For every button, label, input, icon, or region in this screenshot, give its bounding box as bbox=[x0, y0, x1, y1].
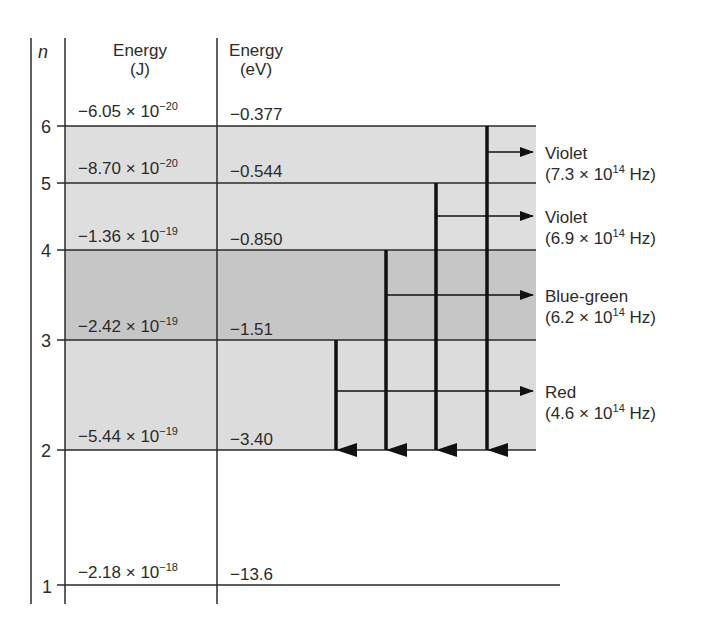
energy-ev-2: −3.40 bbox=[230, 431, 273, 448]
n-label-5: 5 bbox=[41, 175, 51, 193]
energy-ev-3: −1.51 bbox=[230, 321, 273, 338]
emission-frequency-5-2: (6.9 × 1014 Hz) bbox=[545, 228, 656, 251]
emission-label-4-2: Blue-green (6.2 × 1014 Hz) bbox=[545, 286, 656, 330]
energy-j-3: −2.42 × 10−19 bbox=[78, 318, 178, 335]
n-label-1: 1 bbox=[42, 578, 52, 596]
emission-color-3-2: Red bbox=[545, 382, 656, 403]
energy-j-header: Energy (J) bbox=[80, 41, 200, 79]
energy-level-diagram: n Energy (J) Energy (eV) 6 5 4 3 2 1 −6.… bbox=[0, 0, 706, 626]
energy-j-header-line2: (J) bbox=[80, 60, 200, 79]
energy-ev-5: −0.544 bbox=[230, 163, 282, 180]
emission-frequency-3-2: (4.6 × 1014 Hz) bbox=[545, 403, 656, 426]
energy-ev-header-line2: (eV) bbox=[222, 60, 290, 79]
emission-color-5-2: Violet bbox=[545, 207, 656, 228]
emission-label-3-2: Red (4.6 × 1014 Hz) bbox=[545, 382, 656, 426]
n-label-6: 6 bbox=[41, 118, 51, 136]
energy-ev-4: −0.850 bbox=[230, 231, 282, 248]
energy-j-2: −5.44 × 10−19 bbox=[78, 428, 178, 445]
n-label-3: 3 bbox=[41, 332, 51, 350]
n-column-header: n bbox=[38, 43, 48, 61]
energy-j-4: −1.36 × 10−19 bbox=[78, 228, 178, 245]
energy-ev-1: −13.6 bbox=[230, 566, 273, 583]
energy-j-1: −2.18 × 10−18 bbox=[78, 564, 178, 581]
energy-ev-6: −0.377 bbox=[230, 106, 282, 123]
n-label-4: 4 bbox=[41, 242, 51, 260]
energy-j-header-line1: Energy bbox=[80, 41, 200, 60]
energy-ev-header: Energy (eV) bbox=[222, 41, 290, 79]
emission-frequency-4-2: (6.2 × 1014 Hz) bbox=[545, 307, 656, 330]
energy-j-6: −6.05 × 10−20 bbox=[78, 103, 178, 120]
emission-color-4-2: Blue-green bbox=[545, 286, 656, 307]
emission-frequency-6-2: (7.3 × 1014 Hz) bbox=[545, 164, 656, 187]
energy-ev-header-line1: Energy bbox=[222, 41, 290, 60]
n-label-2: 2 bbox=[41, 442, 51, 460]
emission-label-5-2: Violet (6.9 × 1014 Hz) bbox=[545, 207, 656, 251]
emission-color-6-2: Violet bbox=[545, 143, 656, 164]
emission-label-6-2: Violet (7.3 × 1014 Hz) bbox=[545, 143, 656, 187]
energy-j-5: −8.70 × 10−20 bbox=[78, 160, 178, 177]
